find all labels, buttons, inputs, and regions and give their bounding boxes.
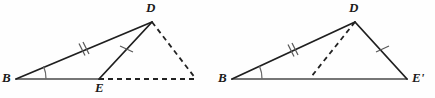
angle-arc-b-left [44, 66, 47, 79]
vertex-label-eprime-right: E' [412, 71, 424, 84]
dashed-segment-d-interior-right [311, 22, 355, 77]
segment-bd-left [16, 22, 152, 79]
dashed-segment-d-eprime-left [152, 22, 196, 79]
geometry-figure-root: B D E B D E' [0, 0, 435, 98]
vertex-label-d-right: D [349, 1, 358, 14]
segment-de-left [99, 22, 152, 79]
angle-arc-b-right [260, 66, 263, 79]
segment-bd-right [232, 22, 355, 79]
left-figure-group [16, 22, 196, 79]
vertex-label-e-left: E [95, 81, 104, 94]
vertex-label-d-left: D [146, 1, 155, 14]
vertex-label-b-left: B [2, 71, 11, 84]
vertex-label-b-right: B [218, 71, 227, 84]
right-figure-group [232, 22, 407, 79]
tick-single-de-left [120, 46, 133, 52]
segment-d-eprime-right [355, 22, 407, 79]
